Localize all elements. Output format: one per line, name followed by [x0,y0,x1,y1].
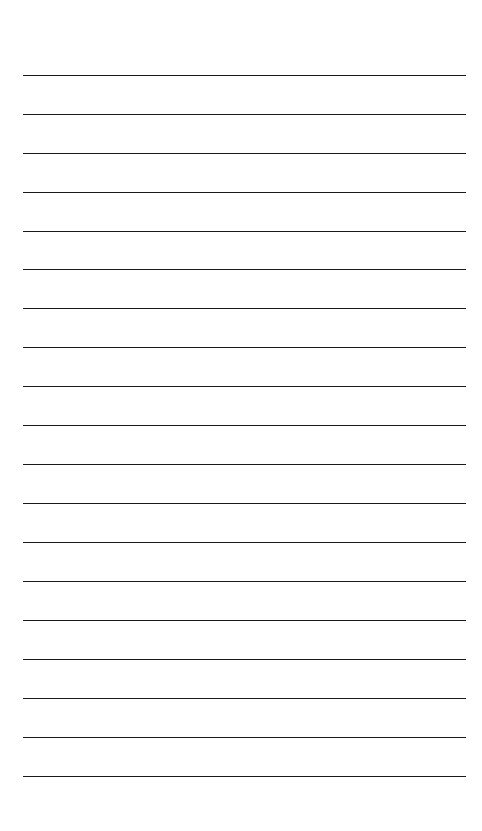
ruled-line [23,425,466,426]
ruled-line [23,698,466,699]
ruled-line [23,386,466,387]
ruled-line [23,114,466,115]
ruled-line [23,153,466,154]
ruled-line [23,192,466,193]
ruled-line [23,581,466,582]
ruled-line [23,503,466,504]
ruled-line [23,269,466,270]
lined-paper-page [0,0,482,831]
ruled-line [23,464,466,465]
ruled-line [23,659,466,660]
ruled-line [23,308,466,309]
ruled-line [23,231,466,232]
ruled-line [23,75,466,76]
ruled-line [23,776,466,777]
ruled-line [23,347,466,348]
ruled-line [23,620,466,621]
ruled-line [23,542,466,543]
ruled-line [23,737,466,738]
